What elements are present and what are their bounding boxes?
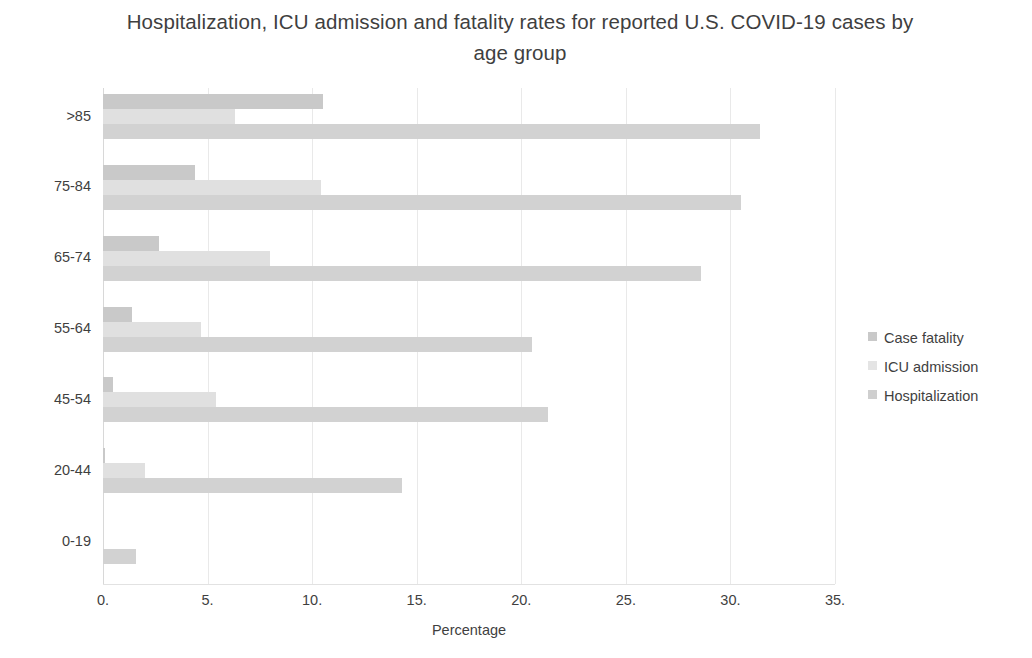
bar-group — [103, 301, 835, 372]
y-tick-85: >85 — [13, 108, 91, 124]
legend-label: ICU admission — [884, 359, 978, 375]
plot-area — [103, 88, 835, 584]
bar-hospitalization-85 — [103, 124, 760, 139]
bar-icu-admission-4554 — [103, 392, 216, 407]
x-tick-5: 5. — [178, 592, 238, 608]
bar-case-fatality-6574 — [103, 236, 159, 251]
bar-case-fatality-2044 — [103, 448, 105, 463]
bar-hospitalization-5564 — [103, 337, 532, 352]
legend-item[interactable]: Hospitalization — [868, 386, 1018, 415]
bar-case-fatality-5564 — [103, 307, 132, 322]
y-tick-2044: 20-44 — [13, 462, 91, 478]
y-tick-019: 0-19 — [13, 533, 91, 549]
bar-hospitalization-6574 — [103, 266, 701, 281]
legend-swatch-icon — [868, 390, 877, 399]
bar-group — [103, 371, 835, 442]
y-tick-7584: 75-84 — [13, 178, 91, 194]
x-tick-25: 25. — [596, 592, 656, 608]
y-tick-5564: 55-64 — [13, 320, 91, 336]
x-axis-line — [103, 584, 835, 585]
x-tick-0: 0. — [73, 592, 133, 608]
bar-group — [103, 513, 835, 584]
bar-icu-admission-6574 — [103, 251, 270, 266]
bar-icu-admission-2044 — [103, 463, 145, 478]
legend-label: Hospitalization — [884, 388, 978, 404]
bar-group — [103, 442, 835, 513]
y-tick-4554: 45-54 — [13, 391, 91, 407]
bar-case-fatality-7584 — [103, 165, 195, 180]
y-tick-6574: 65-74 — [13, 249, 91, 265]
x-tick-35: 35. — [805, 592, 865, 608]
legend-label: Case fatality — [884, 330, 964, 346]
x-tick-20: 20. — [491, 592, 551, 608]
bar-icu-admission-85 — [103, 109, 235, 124]
chart-legend: Case fatalityICU admissionHospitalizatio… — [868, 328, 1018, 415]
chart-title: Hospitalization, ICU admission and fatal… — [120, 6, 920, 68]
legend-item[interactable]: Case fatality — [868, 328, 1018, 357]
x-axis-title: Percentage — [103, 622, 835, 638]
chart-container: Hospitalization, ICU admission and fatal… — [0, 0, 1032, 658]
legend-item[interactable]: ICU admission — [868, 357, 1018, 386]
bar-case-fatality-4554 — [103, 377, 113, 392]
x-tick-10: 10. — [282, 592, 342, 608]
bar-hospitalization-4554 — [103, 407, 548, 422]
bar-icu-admission-7584 — [103, 180, 321, 195]
bar-group — [103, 159, 835, 230]
x-tick-30: 30. — [700, 592, 760, 608]
legend-swatch-icon — [868, 361, 877, 370]
bar-hospitalization-019 — [103, 549, 136, 564]
bar-group — [103, 230, 835, 301]
gridline-35 — [835, 88, 836, 584]
bar-icu-admission-5564 — [103, 322, 201, 337]
bar-hospitalization-2044 — [103, 478, 402, 493]
x-tick-15: 15. — [387, 592, 447, 608]
bar-case-fatality-85 — [103, 94, 323, 109]
bar-hospitalization-7584 — [103, 195, 741, 210]
legend-swatch-icon — [868, 332, 877, 341]
bar-group — [103, 88, 835, 159]
